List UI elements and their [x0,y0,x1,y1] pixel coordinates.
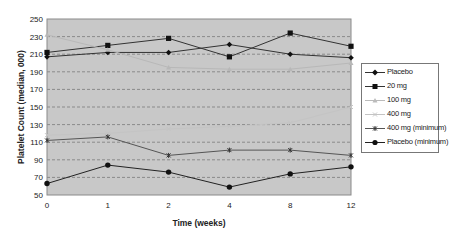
y-axis-title: Platelet Count (median, 000) [16,50,26,164]
circle-marker-icon [44,181,49,186]
triangle-marker-icon [365,96,385,105]
x-tick-label: 2 [166,201,171,210]
square-marker-icon [227,54,232,59]
legend-item-20mg: 20 mg [362,80,438,93]
x-tick-label: 8 [288,201,293,210]
legend-label: 20 mg [387,81,407,90]
square-marker-icon [365,82,385,91]
circle-marker-icon [166,169,171,174]
x-tick-label: 12 [347,201,356,210]
legend-item-400mg: 400 mg [362,108,438,121]
y-tick-label: 90 [34,156,43,165]
x-tick-label: 1 [106,201,111,210]
x-marker-icon [365,110,385,119]
asterisk-marker-icon [365,124,385,133]
y-tick-label: 70 [34,173,43,182]
y-tick-label: 230 [30,33,44,42]
square-marker-icon [105,43,110,48]
circle-marker-icon [105,162,110,167]
legend-item-placebo: Placebo [362,66,438,79]
y-tick-label: 130 [30,121,44,130]
diamond-marker-icon [365,68,385,77]
y-axis-ticks: 250230210190170150130110907050 [30,15,44,200]
legend-item-100mg: 100 mg [362,94,438,107]
legend-item-placebo-minimum: Placebo (minimum) [362,136,438,149]
circle-marker-icon [288,171,293,176]
x-tick-label: 0 [45,201,50,210]
x-axis-ticks: 0124812 [45,201,356,210]
legend-label: Placebo [387,67,413,76]
x-tick-label: 4 [227,201,232,210]
square-marker-icon [44,50,49,55]
circle-marker-icon [365,138,385,147]
y-tick-label: 110 [30,138,43,147]
legend-item-400mg-minimum: 400 mg (minimum) [362,122,438,135]
y-tick-label: 50 [34,191,43,200]
y-tick-label: 170 [30,85,44,94]
square-marker-icon [288,30,293,35]
legend: Placebo 20 mg 100 mg 400 mg 400 mg (mini… [361,63,439,153]
x-axis-title: Time (weeks) [172,218,225,228]
legend-label: 400 mg [387,109,411,118]
square-marker-icon [166,36,171,41]
y-tick-label: 190 [30,68,44,77]
y-tick-label: 150 [30,103,44,112]
y-tick-label: 250 [30,15,44,24]
circle-marker-icon [227,184,232,189]
legend-label: Placebo (minimum) [387,137,448,146]
y-tick-label: 210 [30,50,44,59]
circle-marker-icon [348,164,353,169]
legend-label: 100 mg [387,95,411,104]
square-marker-icon [348,44,353,49]
legend-label: 400 mg (minimum) [387,123,446,132]
